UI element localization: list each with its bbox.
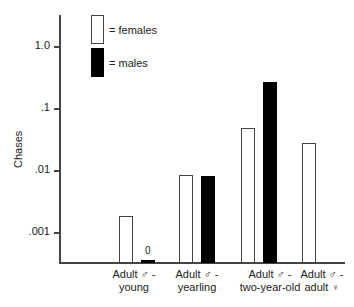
bar-males [141, 260, 155, 263]
category-label: Adult ♂ - yearling [157, 268, 237, 294]
bar-males [201, 176, 215, 263]
legend-label-females: = females [109, 24, 157, 36]
y-axis-label: Chases [12, 131, 24, 168]
y-tick [54, 108, 60, 110]
bar-males [263, 82, 277, 263]
category-label: Adult ♂ - adult ♀ [290, 268, 354, 294]
zero-annotation: 0 [145, 245, 151, 256]
y-tick [54, 46, 60, 48]
y-tick-label: 1.0 [10, 39, 50, 51]
y-tick-label: .1 [10, 101, 50, 113]
bar-females [241, 128, 255, 263]
legend-swatch-females [91, 15, 104, 44]
bar-females [302, 143, 316, 263]
legend-label-males: = males [109, 57, 148, 69]
y-tick-label: .001 [10, 225, 50, 237]
y-tick [54, 170, 60, 172]
bar-females [179, 175, 193, 263]
bar-females [119, 216, 133, 263]
legend-swatch-males [91, 48, 104, 77]
y-axis [59, 15, 61, 263]
y-tick [54, 232, 60, 234]
